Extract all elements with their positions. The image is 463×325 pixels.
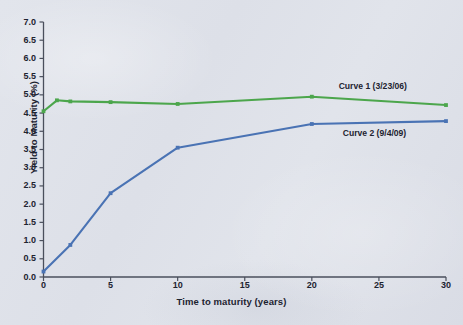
curve-2-line — [44, 121, 447, 271]
curve-2-marker — [109, 191, 113, 195]
curve-2-marker — [176, 146, 180, 150]
curve-1-marker — [42, 109, 46, 113]
plot-area — [0, 0, 463, 325]
curve-2-marker — [444, 119, 448, 123]
curve-1-marker — [310, 95, 314, 99]
curve-1-line — [44, 97, 447, 112]
curve-1-marker — [68, 100, 72, 104]
curve-1-marker — [176, 102, 180, 106]
yield-curve-chart: Yield to Maturity (%) Time to maturity (… — [0, 0, 463, 325]
curve-1-marker — [109, 100, 113, 104]
curve-1-marker — [444, 103, 448, 107]
curve-1-marker — [55, 98, 59, 102]
curve-2-marker — [42, 270, 46, 274]
series-label-curve-1: Curve 1 (3/23/06) — [339, 81, 407, 91]
series-label-curve-2: Curve 2 (9/4/09) — [343, 128, 407, 138]
curve-2-marker — [68, 243, 72, 247]
curve-2-marker — [310, 122, 314, 126]
